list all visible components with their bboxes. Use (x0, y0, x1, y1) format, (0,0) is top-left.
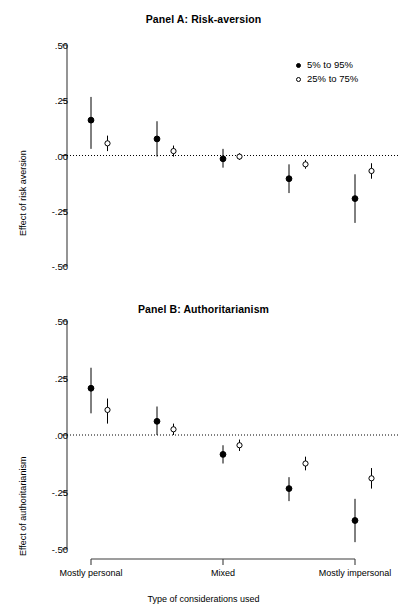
x-tick-label-mixed: Mixed (211, 568, 235, 578)
x-tick-label-mostly-impersonal: Mostly impersonal (319, 568, 392, 578)
y-tick-label: .00 (34, 150, 68, 161)
y-tick-label: -.25 (34, 487, 68, 498)
legend-item-5-95: 5% to 95% (296, 59, 353, 70)
figure-container: Panel A: Risk-aversion Effect of risk av… (0, 0, 407, 610)
y-tick-label: -.50 (34, 544, 68, 555)
x-axis-title: Type of considerations used (0, 594, 407, 604)
y-tick-label: .00 (34, 430, 68, 441)
filled-circle-icon (296, 63, 301, 68)
y-tick-label: .25 (34, 373, 68, 384)
y-tick-label: .50 (34, 40, 68, 51)
x-tick-label-mostly-personal: Mostly personal (59, 568, 122, 578)
legend-label-5-95: 5% to 95% (307, 59, 353, 70)
y-tick-label: -.25 (34, 205, 68, 216)
y-tick-label: -.50 (34, 261, 68, 272)
y-tick-label: .25 (34, 95, 68, 106)
y-tick-label: .50 (34, 316, 68, 327)
open-circle-icon (296, 77, 301, 82)
legend-item-25-75: 25% to 75% (296, 73, 358, 84)
legend-label-25-75: 25% to 75% (307, 73, 358, 84)
